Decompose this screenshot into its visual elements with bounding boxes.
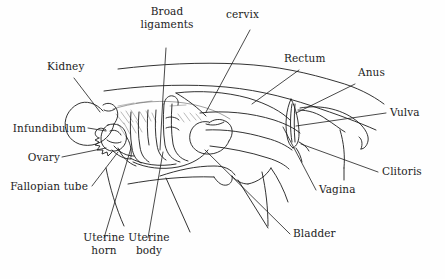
label-broad-ligaments-line2: ligaments bbox=[140, 18, 193, 30]
leader-fallopian-tube bbox=[92, 152, 118, 186]
leader-lines bbox=[62, 30, 386, 238]
vagina-outline bbox=[206, 130, 292, 169]
vulva-outline bbox=[286, 99, 299, 148]
peritoneal-fold bbox=[176, 92, 300, 133]
label-rectum: Rectum bbox=[284, 52, 326, 65]
leader-bladder bbox=[205, 150, 290, 234]
label-uterine-horn-line1: Uterine bbox=[83, 231, 124, 243]
clitoris-mark bbox=[296, 142, 309, 162]
label-kidney: Kidney bbox=[47, 60, 84, 73]
label-clitoris: Clitoris bbox=[382, 165, 422, 178]
label-fallopian-tube: Fallopian tube bbox=[0, 180, 88, 193]
diagram-linework bbox=[0, 0, 445, 279]
label-bladder: Bladder bbox=[293, 227, 336, 240]
leader-rectum bbox=[252, 70, 299, 104]
label-uterine-body-line2: body bbox=[136, 244, 162, 256]
leader-uterine-horn bbox=[104, 148, 131, 238]
label-ovary: Ovary bbox=[0, 151, 60, 164]
label-cervix: cervix bbox=[226, 8, 259, 21]
leader-ovary bbox=[62, 148, 106, 157]
pelvic-floor-contours bbox=[106, 166, 288, 232]
label-broad-ligaments-line1: Broad bbox=[151, 5, 184, 17]
label-broad-ligaments: Broadligaments bbox=[124, 5, 210, 30]
leader-vagina bbox=[283, 127, 316, 190]
label-infundibulum: Infundibulum bbox=[0, 122, 86, 135]
leader-broad-ligaments bbox=[160, 48, 166, 150]
leader-anus bbox=[296, 84, 355, 113]
anatomical-diagram-figure: Broadligaments cervix Rectum Anus Vulva … bbox=[0, 0, 445, 279]
label-uterine-horn: Uterinehorn bbox=[73, 231, 135, 256]
label-vulva: Vulva bbox=[390, 106, 420, 119]
label-uterine-horn-line2: horn bbox=[91, 244, 116, 256]
anus-perineum bbox=[298, 110, 345, 132]
ovary-infundibulum bbox=[95, 124, 126, 156]
leader-kidney bbox=[74, 78, 100, 112]
leader-vulva bbox=[296, 113, 386, 126]
hindquarter-contour bbox=[300, 107, 368, 180]
bladder-outline bbox=[190, 119, 233, 154]
leader-clitoris bbox=[301, 144, 378, 172]
label-anus: Anus bbox=[358, 66, 385, 79]
leader-cervix bbox=[206, 30, 250, 112]
label-vagina: Vagina bbox=[319, 183, 356, 196]
broad-ligament-hatching bbox=[116, 101, 201, 135]
